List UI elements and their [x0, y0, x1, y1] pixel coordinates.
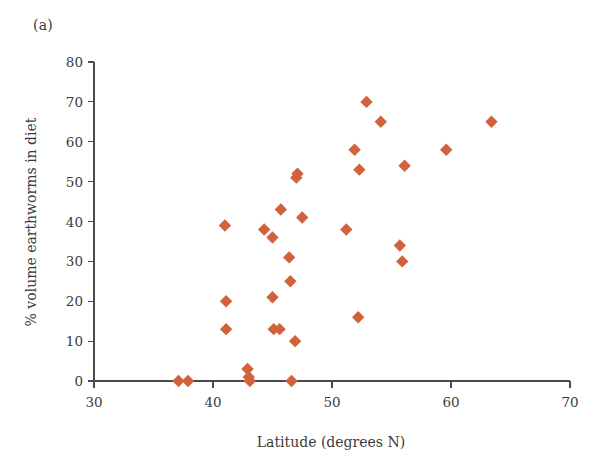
data-point-marker — [275, 203, 287, 215]
data-point-marker — [284, 275, 296, 287]
y-tick-label: 30 — [66, 253, 83, 269]
data-point-marker — [220, 323, 232, 335]
x-tick-label: 40 — [204, 394, 221, 410]
x-tick-label: 30 — [85, 394, 102, 410]
axes-group — [94, 62, 570, 381]
data-point-marker — [258, 223, 270, 235]
data-point-marker — [283, 251, 295, 263]
data-point-marker — [340, 223, 352, 235]
y-tick-label: 70 — [66, 94, 83, 110]
y-tick-label: 0 — [74, 373, 83, 389]
data-point-marker — [375, 116, 387, 128]
data-point-marker — [266, 231, 278, 243]
x-axis-title: Latitude (degrees N) — [257, 434, 405, 450]
data-point-marker — [394, 239, 406, 251]
y-tick-label: 10 — [66, 333, 83, 349]
chart-canvas: 010203040506070803040506070 Latitude (de… — [0, 0, 607, 468]
x-tick-label: 50 — [323, 394, 340, 410]
data-point-marker — [289, 335, 301, 347]
y-tick-label: 60 — [66, 134, 83, 150]
data-point-marker — [266, 291, 278, 303]
y-tick-label: 80 — [66, 54, 83, 70]
data-point-marker — [296, 211, 308, 223]
data-point-marker — [219, 219, 231, 231]
x-tick-label: 70 — [561, 394, 578, 410]
data-point-marker — [348, 144, 360, 156]
y-tick-label: 50 — [66, 174, 83, 190]
data-markers-group — [172, 96, 497, 388]
data-point-marker — [182, 375, 194, 387]
data-point-marker — [360, 96, 372, 108]
data-point-marker — [220, 295, 232, 307]
data-point-marker — [396, 255, 408, 267]
x-tick-label: 60 — [442, 394, 459, 410]
data-point-marker — [398, 159, 410, 171]
y-axis-title: % volume earthworms in diet — [23, 117, 39, 326]
ticks-group — [88, 62, 570, 388]
data-point-marker — [440, 144, 452, 156]
data-point-marker — [285, 375, 297, 387]
tick-labels-group: 010203040506070803040506070 — [66, 54, 579, 410]
y-tick-label: 40 — [66, 214, 83, 230]
data-point-marker — [352, 311, 364, 323]
data-point-marker — [353, 163, 365, 175]
scatter-plot-figure: (a) 010203040506070803040506070 Latitude… — [0, 0, 607, 468]
data-point-marker — [485, 116, 497, 128]
y-tick-label: 20 — [66, 293, 83, 309]
